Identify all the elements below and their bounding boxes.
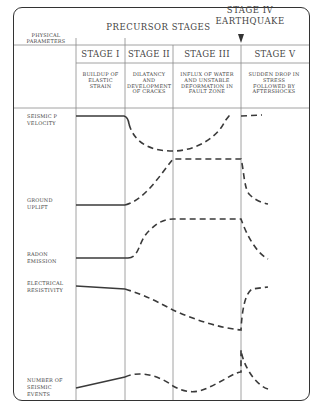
physical-parameters-label: PHYSICAL PARAMETERS	[18, 33, 74, 45]
stage-2-description: DILATANCY AND DEVELOPMENT OF CRACKS	[127, 72, 171, 95]
electrical-resistivity-dashed	[125, 287, 268, 330]
param-ground-uplift: GROUND UPLIFT	[27, 197, 61, 211]
param-seismic-p-velocity: SEISMIC P VELOCITY	[27, 113, 67, 127]
radon-emission-dashed	[128, 219, 268, 259]
seismic-p-velocity-solid	[76, 116, 129, 124]
param-number-of-seismic-events: NUMBER OF SEISMIC EVENTS	[27, 377, 67, 397]
stage-5-description: SUDDEN DROP IN STRESS FOLLOWED BY AFTERS…	[248, 72, 300, 95]
param-radon-emission: RADON EMISSION	[27, 251, 61, 265]
stage-3-description: INFLUX OF WATER AND UNSTABLE DEFORMATION…	[177, 72, 237, 95]
stage-1-label: STAGE I	[76, 50, 125, 60]
electrical-resistivity-solid	[76, 286, 125, 289]
earthquake-label: EARTHQUAKE	[200, 17, 300, 27]
stage-iv-arrow-icon	[238, 34, 244, 43]
param-electrical-resistivity: ELECTRICAL RESISTIVITY	[27, 280, 69, 294]
seismic-p-velocity-dashed	[129, 115, 262, 151]
ground-uplift-dashed	[125, 159, 268, 205]
stage-3-label: STAGE III	[173, 50, 241, 60]
seismic-events-dashed	[125, 350, 268, 392]
stage-2-label: STAGE II	[125, 50, 173, 60]
stage-5-label: STAGE V	[241, 50, 309, 60]
stage-1-description: BUILDUP OF ELASTIC STRAIN	[80, 72, 121, 89]
seismic-events-solid	[76, 377, 125, 388]
stage-iv-label: STAGE IV	[210, 6, 290, 16]
